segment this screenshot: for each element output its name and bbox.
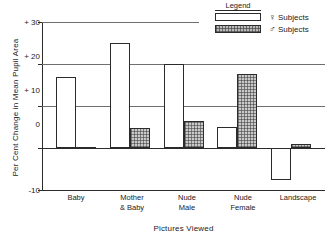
bar-baby-male [76, 147, 96, 149]
cat-label-mother-baby-line1: Mother [102, 193, 162, 203]
pupil-area-bar-chart: Per Cent Change in Mean Pupil Area + 30 … [0, 0, 334, 243]
legend-label-male-text: Subjects [278, 25, 309, 34]
mars-icon: ♂ [269, 24, 278, 34]
cat-label-nude-female-line1: Nude [213, 193, 273, 203]
legend-label-female: ♀Subjects [269, 12, 309, 22]
bar-nude-female-female [217, 127, 237, 148]
y-tick-0: 0 [14, 120, 40, 129]
legend-title: Legend [207, 1, 269, 10]
legend-label-male: ♂Subjects [269, 24, 309, 34]
x-axis-line [42, 190, 325, 191]
bar-nude-female-male [237, 74, 257, 148]
legend-title-underline [215, 10, 261, 11]
bar-nude-male-male [184, 121, 204, 148]
bar-landscape-female [271, 148, 291, 180]
plot-area [42, 22, 325, 190]
cat-label-nude-male-line1: Nude [157, 193, 217, 203]
bar-baby-female [56, 77, 76, 148]
bar-nude-male-female [164, 64, 184, 148]
x-axis-category-labels: Baby Mother & Baby Nude Male Nude Female… [42, 193, 325, 221]
legend-label-female-text: Subjects [278, 13, 309, 22]
legend: Legend ♀Subjects ♂Subjects [207, 1, 331, 35]
y-tick-30: + 30 [14, 18, 40, 27]
bar-landscape-male [291, 144, 311, 148]
y-tick-10: + 10 [14, 86, 40, 95]
cat-label-nude-male-line2: Male [157, 203, 217, 213]
gridline-30 [42, 22, 199, 23]
legend-swatch-male [215, 25, 261, 33]
legend-row-female: ♀Subjects [207, 12, 331, 23]
cat-label-mother-baby-line2: & Baby [102, 203, 162, 213]
y-tick-neg-10: -10 [14, 186, 40, 195]
cat-label-nude-female-line2: Female [213, 203, 273, 213]
y-tick-20: + 20 [14, 52, 40, 61]
cat-label-baby-line1: Baby [46, 193, 106, 203]
x-axis-title: Pictures Viewed [42, 224, 325, 233]
venus-icon: ♀ [269, 12, 278, 22]
bar-mother-baby-female [110, 43, 130, 148]
y-axis-tick-labels: + 30 + 20 + 10 0 -10 [12, 0, 40, 243]
bar-mother-baby-male [130, 128, 150, 148]
legend-swatch-female [215, 13, 261, 21]
cat-label-landscape-line1: Landscape [268, 193, 328, 203]
legend-row-male: ♂Subjects [207, 24, 331, 35]
